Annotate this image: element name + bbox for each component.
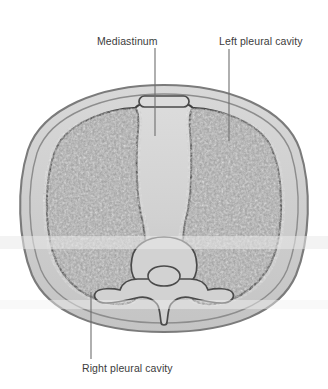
thorax-cross-section-figure (0, 0, 328, 389)
label-right-pleural-cavity: Right pleural cavity (82, 362, 173, 374)
vertebral-foramen (148, 266, 180, 286)
scan-band-artifact (0, 236, 328, 249)
label-left-pleural-cavity: Left pleural cavity (219, 35, 303, 47)
sternum (139, 96, 189, 107)
label-mediastinum: Mediastinum (97, 35, 158, 47)
scan-band-artifact-secondary (0, 300, 328, 309)
